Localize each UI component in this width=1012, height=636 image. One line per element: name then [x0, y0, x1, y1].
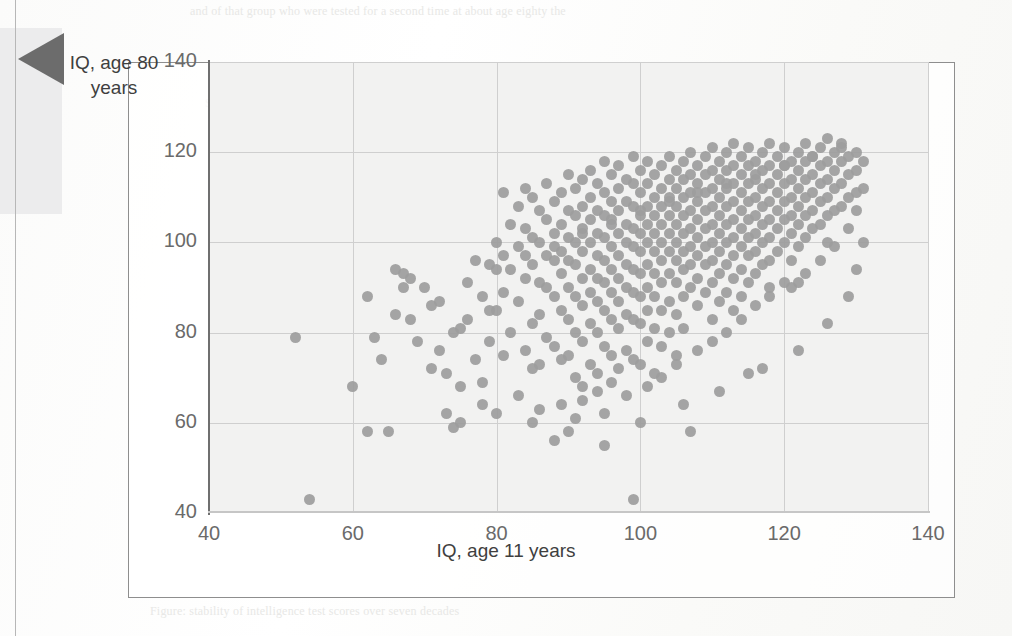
data-point [628, 494, 639, 505]
data-point [764, 255, 775, 266]
data-point [577, 336, 588, 347]
data-point [541, 178, 552, 189]
data-point [786, 255, 797, 266]
data-point [728, 273, 739, 284]
data-point [671, 359, 682, 370]
data-point [721, 287, 732, 298]
data-point [527, 259, 538, 270]
data-point [549, 196, 560, 207]
data-point [534, 309, 545, 320]
y-axis-title: IQ, age 80 years [52, 50, 176, 100]
data-point [462, 277, 473, 288]
data-point [764, 138, 775, 149]
data-point [585, 192, 596, 203]
data-point [815, 255, 826, 266]
data-point [577, 381, 588, 392]
data-point [656, 372, 667, 383]
data-point [656, 341, 667, 352]
data-point [858, 237, 869, 248]
y-tick-label: 100 [133, 229, 197, 252]
data-point [750, 268, 761, 279]
data-point [505, 219, 516, 230]
data-point [642, 178, 653, 189]
data-point [549, 435, 560, 446]
data-point [362, 291, 373, 302]
data-point [592, 327, 603, 338]
data-point [477, 291, 488, 302]
data-point [520, 273, 531, 284]
data-points-layer [209, 62, 928, 513]
data-point [664, 296, 675, 307]
data-point [743, 277, 754, 288]
data-point [606, 377, 617, 388]
data-point [779, 142, 790, 153]
data-point [743, 142, 754, 153]
data-point [541, 214, 552, 225]
data-point [714, 386, 725, 397]
data-point [592, 368, 603, 379]
x-axis-title: IQ, age 11 years [0, 540, 1012, 562]
data-point [678, 399, 689, 410]
data-point [599, 408, 610, 419]
data-point [513, 201, 524, 212]
data-point [376, 354, 387, 365]
data-point [434, 296, 445, 307]
data-point [642, 381, 653, 392]
data-point [505, 327, 516, 338]
data-point [822, 318, 833, 329]
data-point [606, 350, 617, 361]
data-point [563, 314, 574, 325]
data-point [707, 314, 718, 325]
y-tick-label: 60 [133, 410, 197, 433]
data-point [807, 205, 818, 216]
data-point [498, 187, 509, 198]
data-point [441, 368, 452, 379]
data-point [656, 160, 667, 171]
data-point [721, 327, 732, 338]
data-point [671, 277, 682, 288]
data-point [549, 341, 560, 352]
data-point [577, 201, 588, 212]
data-point [455, 381, 466, 392]
data-point [513, 296, 524, 307]
data-point [664, 151, 675, 162]
data-point [707, 255, 718, 266]
data-point [736, 314, 747, 325]
data-point [585, 237, 596, 248]
data-point [851, 264, 862, 275]
data-point [700, 151, 711, 162]
y-axis-line [208, 60, 210, 515]
data-point [642, 336, 653, 347]
data-point [678, 323, 689, 334]
data-point [678, 291, 689, 302]
data-point [527, 417, 538, 428]
data-point [728, 250, 739, 261]
data-point [793, 345, 804, 356]
data-point [498, 287, 509, 298]
data-point [527, 192, 538, 203]
data-point [498, 250, 509, 261]
data-point [585, 214, 596, 225]
data-point [577, 246, 588, 257]
data-point [721, 259, 732, 270]
data-point [613, 323, 624, 334]
y-tick-label: 120 [133, 139, 197, 162]
data-point [398, 282, 409, 293]
data-point [772, 246, 783, 257]
data-point [477, 377, 488, 388]
data-point [383, 426, 394, 437]
data-point [692, 345, 703, 356]
gridline-vertical [928, 62, 929, 513]
data-point [851, 205, 862, 216]
data-point [513, 390, 524, 401]
x-axis-line [208, 511, 930, 513]
data-point [599, 440, 610, 451]
data-point [707, 142, 718, 153]
data-point [649, 169, 660, 180]
data-point [786, 282, 797, 293]
data-point [700, 287, 711, 298]
data-point [613, 363, 624, 374]
data-point [455, 417, 466, 428]
data-point [656, 255, 667, 266]
data-point [707, 277, 718, 288]
